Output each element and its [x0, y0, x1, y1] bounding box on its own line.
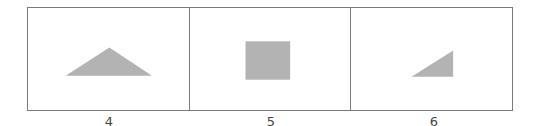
rectangle-shape [190, 8, 351, 110]
panel-6 [350, 8, 512, 110]
shape-sequence-strip [27, 7, 513, 111]
isosceles-triangle-shape [28, 8, 189, 110]
panel-label-6: 6 [414, 114, 454, 126]
panel-label-4: 4 [89, 114, 129, 126]
panel-5 [189, 8, 351, 110]
right-triangle-polygon [412, 50, 454, 76]
panel-4 [28, 8, 189, 110]
panel-label-5: 5 [251, 114, 291, 126]
right-triangle-shape [351, 8, 512, 110]
triangle-polygon [66, 47, 152, 75]
rectangle-rect [245, 41, 290, 79]
